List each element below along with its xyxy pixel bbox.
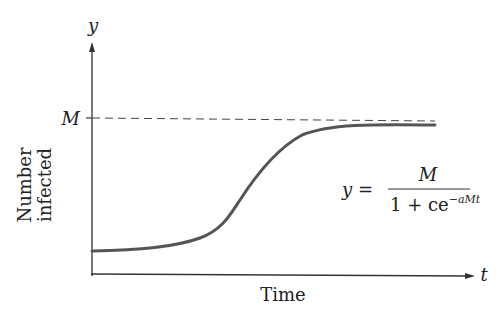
equation-lhs: y = [341,179,373,200]
ylabel-line1: Number [14,147,35,223]
m-label: M [61,108,81,129]
equation-numerator: M [418,164,438,185]
ylabel-line2: infected [34,148,55,222]
y-axis-arrow-icon [89,42,95,52]
x-axis [91,274,468,276]
x-axis-arrow-icon [465,273,475,279]
asymptote-line [92,118,435,121]
logistic-curve [92,125,435,251]
logistic-chart: y t M Number infected Time y = M 1 + ce−… [0,0,503,317]
xlabel: Time [260,284,305,305]
t-symbol: t [480,264,488,285]
equation-denominator: 1 + ce−aMt [390,193,481,215]
y-symbol: y [87,15,99,36]
